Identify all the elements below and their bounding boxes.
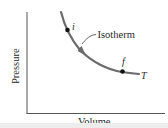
isotherm-leader-line [82, 35, 96, 45]
final-point-marker [120, 69, 125, 74]
final-point-label: f [122, 56, 126, 67]
isotherm-label: Isotherm [98, 29, 135, 40]
bottom-strip [0, 123, 168, 128]
y-axis-label: Pressure [10, 48, 21, 84]
initial-point-marker [65, 28, 70, 33]
temperature-label: T [141, 70, 148, 81]
isotherm-diagram: i f Isotherm T Volume Pressure [0, 0, 168, 128]
initial-point-label: i [72, 21, 75, 32]
pv-diagram-svg: i f Isotherm T Volume Pressure [0, 0, 168, 128]
